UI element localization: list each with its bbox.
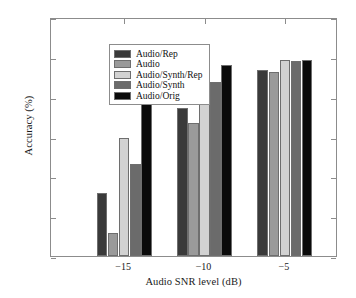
y-tick-mark-right — [331, 59, 336, 60]
y-tick-mark — [51, 218, 56, 219]
legend-swatch — [114, 92, 131, 100]
legend-swatch — [114, 81, 131, 89]
legend-item: Audio — [114, 59, 203, 69]
y-tick-mark — [51, 19, 56, 20]
bar — [108, 233, 119, 256]
x-tick-label: −10 — [174, 261, 234, 272]
y-tick-mark — [51, 99, 56, 100]
y-tick-mark — [51, 258, 56, 259]
y-tick-mark-right — [331, 19, 336, 20]
bar — [221, 65, 232, 256]
legend-swatch — [114, 50, 131, 58]
x-tick-label: −15 — [93, 261, 153, 272]
legend-label: Audio/Synth/Rep — [136, 70, 203, 80]
y-tick-mark — [51, 139, 56, 140]
y-tick-mark-right — [331, 99, 336, 100]
legend-label: Audio/Rep — [136, 49, 178, 59]
bar — [302, 60, 313, 256]
bar — [119, 138, 130, 257]
bar — [210, 82, 221, 256]
legend-label: Audio/Orig — [136, 91, 180, 101]
x-tick-mark-top — [205, 19, 206, 24]
bar — [188, 123, 199, 256]
legend-swatch — [114, 60, 131, 68]
bar — [291, 61, 302, 256]
legend-label: Audio/Synth — [136, 80, 185, 90]
bar — [141, 84, 152, 256]
x-tick-mark-top — [124, 19, 125, 24]
legend-item: Audio/Synth/Rep — [114, 70, 203, 80]
legend-item: Audio/Rep — [114, 49, 203, 59]
legend-item: Audio/Orig — [114, 91, 203, 101]
y-tick-mark-right — [331, 218, 336, 219]
legend: Audio/RepAudioAudio/Synth/RepAudio/Synth… — [109, 44, 210, 105]
plot-area: Audio/RepAudioAudio/Synth/RepAudio/Synth… — [50, 18, 337, 257]
y-tick-mark-right — [331, 258, 336, 259]
y-tick-mark — [51, 59, 56, 60]
y-axis-label: Accuracy (%) — [23, 46, 34, 206]
x-tick-mark-top — [285, 19, 286, 24]
x-axis-label: Audio SNR level (dB) — [50, 276, 337, 287]
y-tick-mark-right — [331, 178, 336, 179]
bar — [269, 72, 280, 256]
bar — [97, 193, 108, 256]
bar — [280, 60, 291, 256]
bar — [177, 108, 188, 256]
legend-item: Audio/Synth — [114, 80, 203, 90]
bar-chart-figure: Accuracy (%) Audio SNR level (dB) Audio/… — [0, 0, 356, 298]
legend-label: Audio — [136, 59, 160, 69]
bar — [257, 70, 268, 256]
y-tick-mark-right — [331, 139, 336, 140]
y-tick-mark — [51, 178, 56, 179]
bar — [130, 164, 141, 256]
legend-swatch — [114, 71, 131, 79]
x-tick-label: −5 — [254, 261, 314, 272]
